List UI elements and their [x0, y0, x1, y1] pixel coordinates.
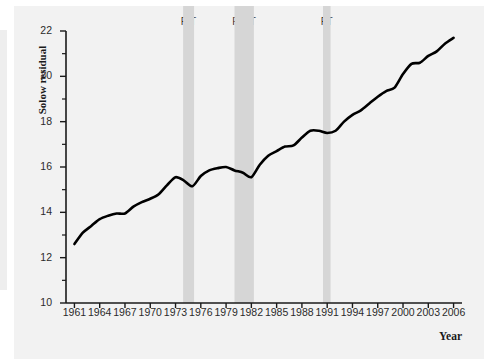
axis-lines	[66, 31, 462, 303]
recession-band-3	[323, 6, 331, 303]
data-series-group	[74, 38, 453, 244]
series-line-solow-residual	[74, 38, 453, 244]
solow-residual-figure: Solow residual Year 10121416182022 19611…	[0, 0, 484, 359]
recession-band-2	[235, 6, 254, 303]
chart-plot	[0, 0, 484, 359]
recession-band-1	[183, 6, 194, 303]
recession-bands	[183, 6, 330, 303]
